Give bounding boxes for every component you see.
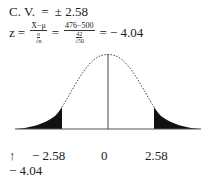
z-statistic-label: − 4.04 xyxy=(9,163,42,179)
tick-center: 0 xyxy=(101,148,108,164)
tick-left-cv: − 2.58 xyxy=(32,148,65,164)
tick-right-cv: 2.58 xyxy=(145,148,168,164)
arrow-icon: ↑ xyxy=(9,148,16,164)
right-rejection-region xyxy=(154,107,201,129)
left-rejection-region xyxy=(15,107,62,129)
